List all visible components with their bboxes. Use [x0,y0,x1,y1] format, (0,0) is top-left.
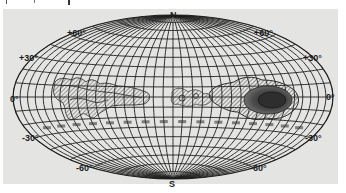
lat-plus60-left-label: +60° [67,29,86,38]
galactic-map-figure: N S +60° +60° +30° +30° 0° 0° -30° -30° … [0,0,346,193]
lat-zero-right-label: 0° [326,93,335,102]
lat-plus60-right-label: +60° [254,29,273,38]
lat-plus30-left-label: +30° [19,54,38,63]
lat-minus30-left-label: -30° [22,134,39,143]
right-dense-region [209,77,298,119]
lat-minus60-left-label: -60° [76,164,93,173]
lat-minus30-right-label: -30° [305,134,322,143]
lat-plus30-right-label: +30° [303,54,322,63]
center-contour-cluster [171,88,212,106]
north-pole-label: N [170,11,177,20]
map-grid-svg [0,0,346,193]
south-pole-label: S [169,180,175,189]
lat-zero-left-label: 0° [10,95,19,104]
lat-minus60-right-label: -60° [250,164,267,173]
